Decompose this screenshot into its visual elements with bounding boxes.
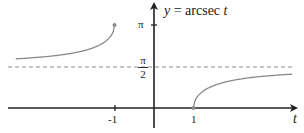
x-tick-label-1: 1	[191, 114, 197, 125]
arcsec-chart	[0, 0, 304, 133]
y-tick-label-pi: π	[138, 19, 144, 30]
x-axis-label: t	[293, 112, 297, 126]
endpoint-right	[192, 106, 196, 110]
endpoint-left	[113, 23, 117, 27]
y-tick-label-pi-over-2: π 2	[138, 55, 148, 80]
curve-right-branch	[194, 74, 293, 108]
chart-title: y = arcsec t	[164, 4, 227, 18]
curve-left-branch	[16, 25, 115, 59]
x-tick-label-neg1: -1	[108, 114, 117, 125]
